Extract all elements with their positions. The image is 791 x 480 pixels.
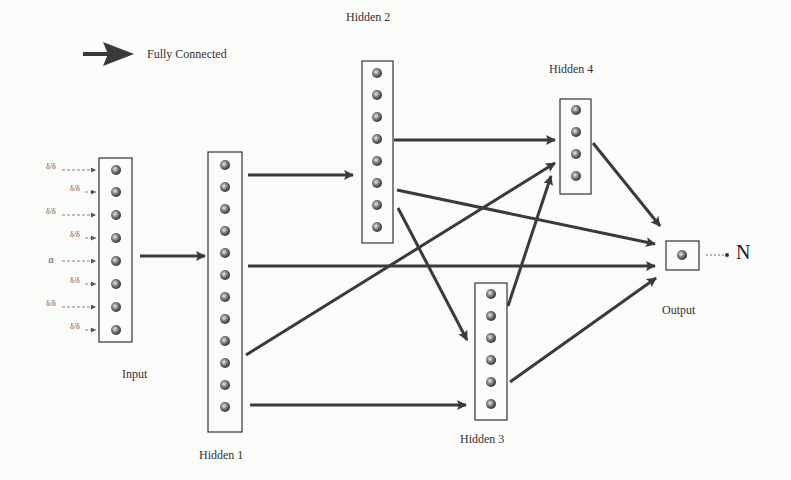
layer-hidden3 <box>475 283 507 420</box>
output-symbol: N <box>736 241 750 264</box>
input-feature-arrows <box>62 170 96 330</box>
input-label: Input <box>122 367 147 382</box>
hidden2-label: Hidden 2 <box>346 10 390 25</box>
hidden1-label: Hidden 1 <box>199 448 243 463</box>
legend-arrow-icon <box>83 42 134 66</box>
input-feature-label: δ/δ <box>68 185 82 193</box>
hidden3-label: Hidden 3 <box>460 432 504 447</box>
layer-hidden2 <box>362 61 393 243</box>
output-dot <box>725 253 729 257</box>
arrow-hidden3-output <box>510 278 656 382</box>
input-feature-label: δ/δ <box>44 300 58 308</box>
arrow-hidden4-output <box>593 143 660 226</box>
arrow-hidden2-hidden3 <box>398 208 467 340</box>
layer-hidden4 <box>560 99 591 194</box>
input-feature-label: δ/δ <box>68 323 82 331</box>
input-feature-label: δ/δ <box>44 163 58 171</box>
output-label: Output <box>662 303 695 318</box>
layer-output <box>666 241 729 270</box>
hidden4-label: Hidden 4 <box>549 62 593 77</box>
network-diagram <box>0 0 791 480</box>
input-feature-label: α <box>44 256 58 264</box>
layer-input <box>99 158 132 342</box>
legend-label: Fully Connected <box>147 47 227 62</box>
input-feature-label: δ/δ <box>68 231 82 239</box>
arrow-hidden3-hidden4 <box>508 176 551 306</box>
input-feature-label: δ/δ <box>44 208 58 216</box>
layer-hidden1 <box>208 152 242 432</box>
input-feature-label: δ/δ <box>68 277 82 285</box>
